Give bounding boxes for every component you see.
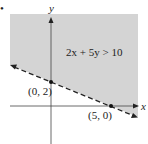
point-5-0-label: (5, 0)	[88, 109, 112, 122]
inequality-label: 2x + 5y > 10	[66, 46, 123, 58]
inequality-graph: • y x 2x + 5y > 10 (0, 2) (5, 0)	[0, 0, 148, 144]
boundary-arrow-left-icon	[10, 65, 17, 70]
point-0-2-label: (0, 2)	[28, 85, 52, 98]
figure-marker: •	[0, 2, 4, 14]
point-5-0	[109, 104, 113, 108]
y-axis-label: y	[48, 2, 54, 14]
shaded-region	[10, 14, 138, 117]
point-0-2	[49, 80, 53, 84]
x-axis-label: x	[140, 100, 146, 112]
